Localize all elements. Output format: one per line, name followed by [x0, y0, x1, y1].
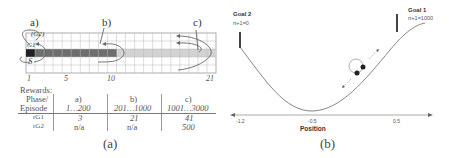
x-tick-neg1-2: -1.2 [236, 118, 245, 124]
x-axis-arrow-right [428, 113, 433, 117]
mountain-car-diagram [225, 0, 451, 158]
goal2-reward: rt+1=0 [233, 20, 249, 26]
phase-b-marker: b) [102, 16, 111, 28]
x-tick-21: 21 [206, 74, 214, 83]
caption-a: (a) [103, 136, 117, 152]
x-tick-neg0-5: -0.5 [308, 118, 317, 124]
row-rg2-label: rG2 [33, 122, 44, 130]
caption-b: (b) [320, 136, 335, 152]
goal2-title: Goal 2 [233, 11, 251, 17]
goal1-title: Goal 1 [408, 7, 426, 13]
arrow-forward [369, 51, 377, 59]
rg2-b: n/a [127, 122, 137, 132]
row-rg1-label: rG1 [33, 113, 44, 121]
x-axis-label: Position [300, 125, 326, 132]
goal2-label: (G2) [31, 30, 44, 38]
panel-a-gridworld: a) b) c) (G2) G1 S 1 5 10 21 Rewards: Ph… [0, 0, 225, 158]
x-axis-arrow-left [230, 113, 235, 117]
episodes-c: 1001…3000 [167, 103, 209, 113]
phase-a-marker: a) [30, 16, 39, 28]
car-wheel-front [361, 65, 366, 70]
x-tick-10: 10 [107, 74, 115, 83]
panel-b-mountain-car: Goal 2 rt+1=0 Goal 1 rt+1=1000 -1.2 -0.5… [225, 0, 451, 158]
x-tick-1: 1 [27, 74, 31, 83]
x-tick-5: 5 [64, 74, 68, 83]
valley-curve [240, 23, 425, 111]
start-label: S [28, 56, 33, 66]
episodes-a: 1…200 [66, 103, 91, 113]
arrow-backward [344, 79, 351, 86]
car-wheel-rear [355, 71, 360, 76]
rg2-a: n/a [74, 122, 84, 132]
header-episode: Episode [20, 103, 47, 113]
episodes-b: 201…1000 [114, 103, 151, 113]
x-tick-0-5: 0.5 [393, 118, 400, 124]
phase-c-marker: c) [193, 16, 202, 28]
goal1-label: G1 [27, 41, 36, 49]
goal1-reward: rt+1=1000 [408, 15, 433, 21]
rg2-c: 500 [182, 122, 195, 132]
